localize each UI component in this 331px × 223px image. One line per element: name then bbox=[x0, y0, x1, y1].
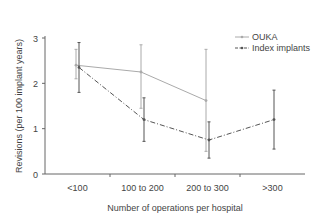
legend: OUKAIndex implants bbox=[235, 32, 311, 53]
series-ouka bbox=[75, 45, 208, 152]
data-point bbox=[205, 99, 208, 102]
x-tick-label: >300 bbox=[262, 183, 282, 193]
legend-marker bbox=[241, 36, 244, 39]
legend-label: Index implants bbox=[252, 43, 311, 53]
y-tick-label: 1 bbox=[33, 124, 38, 134]
y-tick-label: 0 bbox=[33, 170, 38, 180]
series-index-implants bbox=[78, 43, 276, 159]
series-line bbox=[79, 67, 274, 140]
y-tick-label: 2 bbox=[33, 79, 38, 89]
legend-label: OUKA bbox=[252, 32, 278, 42]
data-point bbox=[273, 118, 276, 121]
data-point bbox=[143, 118, 146, 121]
data-point bbox=[78, 66, 81, 69]
x-tick-label: 200 to 300 bbox=[186, 183, 229, 193]
series-layer bbox=[75, 43, 276, 159]
y-tick-label: 3 bbox=[33, 34, 38, 44]
x-tick-label: <100 bbox=[67, 183, 87, 193]
data-point bbox=[208, 139, 211, 142]
line-chart: 0123<100100 to 200200 to 300>300 OUKAInd… bbox=[0, 0, 331, 223]
legend-marker bbox=[241, 47, 244, 50]
axes: 0123<100100 to 200200 to 300>300 bbox=[33, 34, 305, 194]
y-axis-title: Revisions (per 100 implant years) bbox=[14, 39, 24, 173]
data-point bbox=[140, 71, 143, 74]
x-tick-label: 100 to 200 bbox=[121, 183, 164, 193]
data-point bbox=[75, 64, 78, 67]
x-axis-title: Number of operations per hospital bbox=[107, 203, 243, 213]
